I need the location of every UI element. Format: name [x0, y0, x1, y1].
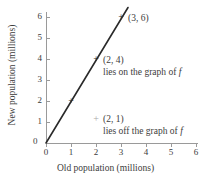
annotation-lies-on-graph: lies on the graph of f	[103, 67, 181, 78]
function-name-f-on: f	[179, 67, 182, 77]
point-marker-2-1: +	[91, 114, 101, 124]
population-graph-figure: 0 1 2 3 4 5 6 1 2 3 4 5 6 0 + + + + (3, …	[0, 0, 211, 181]
function-name-f-off: f	[180, 126, 183, 136]
annotation-lies-off-graph: lies off the graph of f	[103, 126, 183, 137]
y-axis-title: New population (millions)	[7, 5, 17, 145]
annotation-point-2-1: (2, 1)	[103, 114, 124, 125]
lies-off-graph-text: lies off the graph of	[103, 126, 180, 136]
point-marker-2-4: +	[91, 54, 101, 64]
x-axis-title: Old population (millions)	[0, 163, 211, 173]
point-marker-1-2: +	[66, 96, 76, 106]
point-marker-3-6: +	[116, 12, 126, 22]
lies-on-graph-text: lies on the graph of	[103, 67, 179, 77]
function-line-f	[0, 0, 211, 181]
annotation-point-2-4: (2, 4)	[103, 55, 124, 66]
annotation-point-3-6: (3, 6)	[128, 13, 149, 24]
